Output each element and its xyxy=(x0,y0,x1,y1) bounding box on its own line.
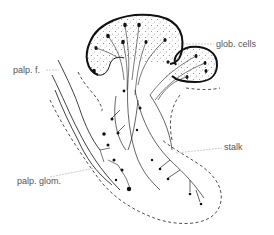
label-glob-cells: glob. cells xyxy=(216,40,256,49)
label-palp-f: palp. f. xyxy=(13,66,40,75)
palp-fibres xyxy=(52,60,120,190)
label-stalk: stalk xyxy=(224,143,243,152)
palp-glomeruli xyxy=(100,132,131,191)
label-palp-glom: palp. glom. xyxy=(17,177,61,186)
large-calyx xyxy=(87,15,183,95)
diagram-figure xyxy=(0,0,274,235)
stalk-lines xyxy=(112,80,204,202)
